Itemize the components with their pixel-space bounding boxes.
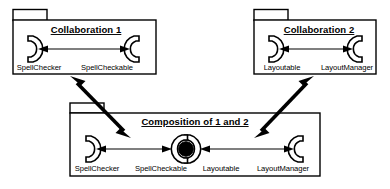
port-label-layoutmanager: LayoutManager bbox=[257, 164, 310, 173]
merged-ball-socket-icon bbox=[171, 135, 200, 163]
port-label-layoutable: Layoutable bbox=[264, 63, 301, 72]
diagram-canvas: Collaboration 1 SpellChecker SpellChecka… bbox=[0, 0, 390, 189]
package-title: Collaboration 2 bbox=[284, 24, 355, 35]
package-tab bbox=[13, 10, 47, 21]
package-title: Collaboration 1 bbox=[51, 24, 122, 35]
collaboration-composition-diagram: Collaboration 1 SpellChecker SpellChecka… bbox=[0, 0, 390, 189]
port-label-spellchecker: SpellChecker bbox=[75, 164, 120, 173]
package-title: Composition of 1 and 2 bbox=[141, 116, 248, 127]
package-collaboration-2[interactable]: Collaboration 2 Layoutable LayoutManager bbox=[254, 10, 376, 75]
port-label-layoutable: Layoutable bbox=[203, 164, 240, 173]
port-label-spellcheckable: SpellCheckable bbox=[135, 164, 187, 173]
package-collaboration-1[interactable]: Collaboration 1 SpellChecker SpellChecka… bbox=[13, 10, 156, 75]
port-label-spellchecker: SpellChecker bbox=[17, 63, 62, 72]
port-label-spellcheckable: SpellCheckable bbox=[81, 63, 133, 72]
port-label-layoutmanager: LayoutManager bbox=[321, 63, 374, 72]
package-tab bbox=[254, 10, 288, 21]
